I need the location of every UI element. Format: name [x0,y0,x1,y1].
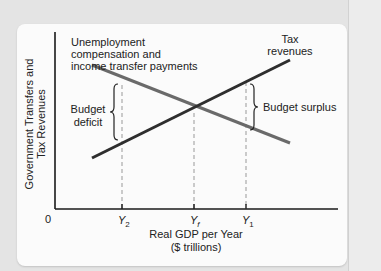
ylabel-1: Government Transfers and [23,59,35,190]
y1-label: Y1 [242,214,254,229]
yf-label: Yf [190,214,200,229]
transfers-line [92,65,290,143]
deficit-label-1: Budget [71,103,106,115]
transfers-label-3: income transfer payments [71,60,198,72]
deficit-label-2: deficit [74,116,103,128]
transfers-label-1: Unemployment [71,36,145,48]
tax-label-2: revenues [267,45,313,57]
origin-label: 0 [45,213,51,225]
ylabel-2: Tax Revenues [35,89,47,159]
surplus-brace [250,84,258,130]
y2-label: Y2 [118,214,130,229]
tax-label-1: Tax [281,33,299,45]
deficit-brace [110,84,118,140]
transfers-label-2: compensation and [71,48,161,60]
xlabel-2: ($ trillions) [171,241,222,253]
xlabel-1: Real GDP per Year [149,228,243,240]
surplus-label: Budget surplus [263,101,337,113]
